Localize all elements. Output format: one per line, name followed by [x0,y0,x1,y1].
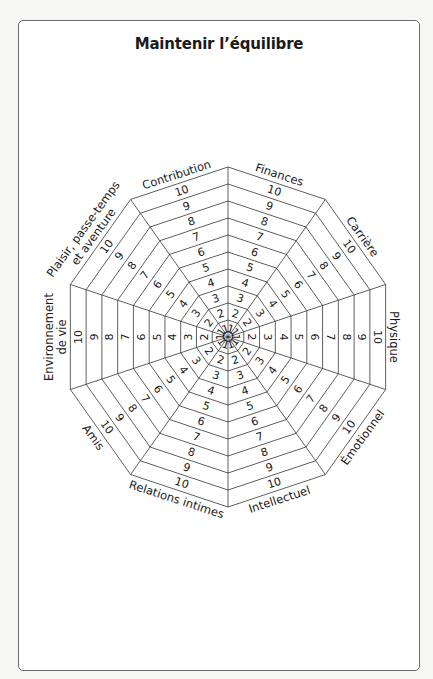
ring-number: 6 [151,278,166,291]
ring-number: 3 [235,368,246,383]
ring-number: 10 [173,183,190,200]
ring-number: 6 [196,414,207,429]
ring-number: 10 [173,475,190,492]
ring-number: 9 [181,199,192,214]
ring-number: 10 [266,475,283,492]
spoke-6 [131,337,228,475]
ring-number: 8 [103,334,116,341]
ring-number: 6 [135,334,148,341]
ring-number: 7 [304,269,319,282]
ring-number: 6 [249,245,260,260]
ring-number: 4 [166,334,179,341]
ring-number: 5 [201,399,212,414]
ring-number: 3 [253,307,268,320]
ring-number: 8 [316,259,331,272]
ring-number: 7 [254,430,265,445]
spoke-4 [228,337,325,475]
ring-number: 9 [355,334,368,341]
sector-label-plaisir-passe-temps-aventure: Plaisir, passe-temps [44,178,123,279]
ring-number: 5 [163,288,178,301]
ring-number: 3 [189,354,204,367]
ring-number: 2 [215,353,226,368]
ring-number: 9 [264,460,275,475]
ring-number: 5 [245,261,256,276]
sector-label-emotionnel: Émotionnel [337,406,387,467]
ring-number: 9 [112,411,127,424]
ring-number: 4 [277,334,290,341]
ring-number: 9 [88,334,101,341]
ring-number: 6 [291,278,306,291]
ring-number: 2 [240,345,255,358]
ring-number: 8 [186,214,197,229]
ring-number: 6 [291,383,306,396]
ring-number: 4 [206,384,217,399]
ring-number: 8 [259,214,270,229]
ring-number: 9 [329,411,344,424]
ring-number: 4 [206,276,217,291]
ring-number: 5 [278,373,293,386]
ring-number: 2 [240,316,255,329]
ring-number: 5 [163,373,178,386]
ring-number: 7 [304,392,319,405]
ring-number: 2 [230,353,241,368]
ring-number: 7 [119,334,132,341]
ring-number: 9 [181,460,192,475]
ring-number: 5 [201,261,212,276]
ring-number: 5 [278,288,293,301]
ring-number: 3 [253,354,268,367]
balance-wheel: 1234567891012345678910123456789101234567… [0,0,433,679]
ring-number: 4 [176,364,191,377]
ring-number: 2 [245,334,258,341]
ring-number: 7 [254,230,265,245]
ring-number: 6 [308,334,321,341]
ring-number: 2 [215,307,226,322]
ring-number: 3 [210,368,221,383]
ring-number: 10 [72,330,85,344]
ring-number: 8 [259,445,270,460]
ring-number: 8 [125,402,140,415]
ring-number: 2 [202,345,217,358]
ring-number: 7 [138,392,153,405]
spoke-1 [228,199,325,337]
ring-number: 5 [292,334,305,341]
ring-number: 2 [202,316,217,329]
ring-number: 9 [264,199,275,214]
ring-number: 4 [265,364,280,377]
ring-number: 6 [249,414,260,429]
ring-number: 7 [191,430,202,445]
ring-number: 7 [324,334,337,341]
ring-number: 4 [265,297,280,310]
ring-number: 3 [182,334,195,341]
spoke-9 [131,199,228,337]
ring-number: 4 [240,384,251,399]
ring-number: 7 [191,230,202,245]
ring-number: 6 [196,245,207,260]
ring-number: 5 [245,399,256,414]
ring-number: 7 [138,269,153,282]
ring-number: 4 [240,276,251,291]
ring-number: 10 [266,183,283,200]
ring-number: 5 [151,334,164,341]
ring-number: 8 [340,334,353,341]
ring-number: 3 [261,334,274,341]
ring-number: 8 [125,259,140,272]
ring-number: 3 [210,291,221,306]
ring-number: 3 [235,291,246,306]
ring-number: 10 [371,330,384,344]
sector-label-physique: Physique [387,311,401,363]
ring-number: 8 [186,445,197,460]
ring-number: 2 [230,307,241,322]
ring-number: 4 [176,297,191,310]
ring-number: 9 [329,250,344,263]
ring-number: 6 [151,383,166,396]
ring-number: 8 [316,402,331,415]
ring-number: 3 [189,307,204,320]
ring-number: 9 [112,250,127,263]
sector-label-environnement-de-vie: de vie [55,319,69,354]
ring-number: 2 [198,334,211,341]
